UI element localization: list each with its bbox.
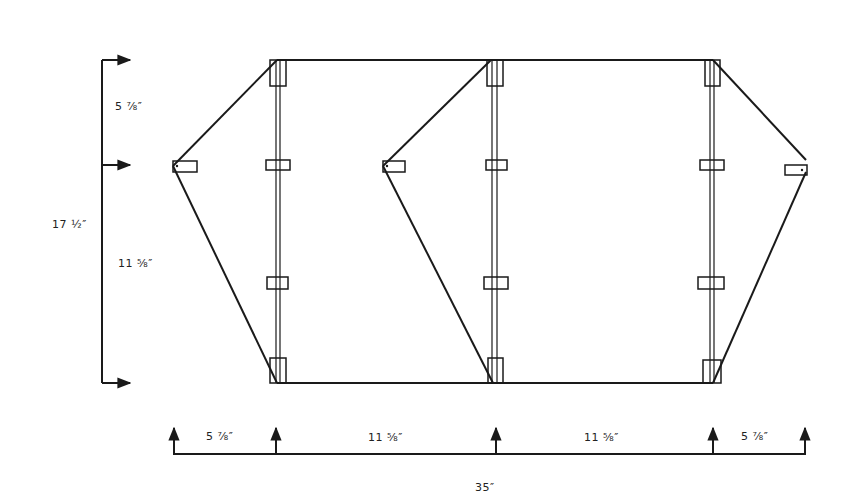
- kite-outline: [173, 60, 806, 383]
- segment-3-label: 11 ⅝″: [584, 431, 619, 444]
- total-width-label: 35″: [475, 481, 495, 494]
- horizontal-dimension-bar: [173, 428, 806, 454]
- upper-height-label: 5 ⅞″: [115, 100, 142, 113]
- spars: [276, 60, 714, 383]
- total-height-label: 17 ½″: [52, 218, 87, 231]
- spar-pockets: [173, 60, 807, 383]
- lower-height-label: 11 ⅝″: [118, 257, 153, 270]
- segment-1-label: 5 ⅞″: [206, 430, 233, 443]
- kite-diagram: [0, 0, 862, 500]
- segment-2-label: 11 ⅝″: [368, 431, 403, 444]
- segment-4-label: 5 ⅞″: [741, 430, 768, 443]
